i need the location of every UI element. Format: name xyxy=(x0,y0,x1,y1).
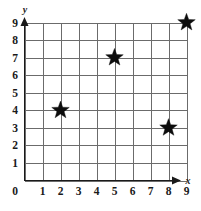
y-axis-tick-labels: 123456789 xyxy=(12,17,18,169)
x-tick-label: 2 xyxy=(58,185,64,197)
x-tick-label: 4 xyxy=(94,185,100,197)
x-tick-label: 6 xyxy=(130,185,136,197)
coordinate-grid-chart: 0123456789 123456789 x y xyxy=(0,0,201,211)
y-tick-label: 6 xyxy=(12,69,18,81)
chart-background xyxy=(0,0,201,211)
x-axis-label: x xyxy=(185,175,191,186)
x-tick-label: 8 xyxy=(166,185,172,197)
x-tick-label: 0 xyxy=(12,185,18,197)
x-tick-label: 7 xyxy=(148,185,154,197)
chart-canvas: 0123456789 123456789 x y xyxy=(0,0,201,211)
y-tick-label: 8 xyxy=(12,34,18,46)
x-tick-label: 5 xyxy=(112,185,118,197)
y-tick-label: 3 xyxy=(12,122,18,134)
y-tick-label: 5 xyxy=(12,87,18,99)
y-tick-label: 9 xyxy=(12,17,18,29)
y-axis-label: y xyxy=(22,4,28,15)
y-tick-label: 7 xyxy=(12,52,18,64)
y-tick-label: 4 xyxy=(12,104,18,116)
y-tick-label: 1 xyxy=(12,157,18,169)
x-tick-label: 1 xyxy=(40,185,46,197)
y-tick-label: 2 xyxy=(12,139,18,151)
x-tick-label: 9 xyxy=(184,185,190,197)
x-tick-label: 3 xyxy=(76,185,82,197)
